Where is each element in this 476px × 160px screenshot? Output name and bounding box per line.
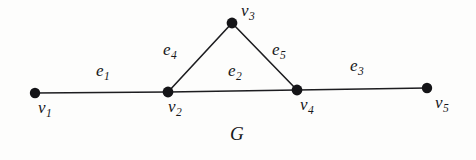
edge-label-e5: e5 (272, 41, 285, 58)
edge-label-e1: e1 (96, 62, 109, 79)
vertex-label-v1-base: v (38, 98, 46, 117)
edge-label-e4-base: e (163, 40, 171, 59)
graph-caption: G (230, 124, 244, 143)
vertex-label-v3-base: v (241, 1, 249, 20)
edge-e4-line (168, 23, 232, 92)
vertex-label-v3: v3 (241, 2, 254, 19)
edge-label-e2-base: e (228, 61, 236, 80)
edge-label-e3-sub: 3 (358, 65, 364, 77)
edge-label-e4: e4 (163, 41, 176, 58)
vertex-v2-dot (163, 87, 174, 98)
vertex-v1-dot (30, 88, 40, 98)
edge-label-e1-base: e (96, 61, 104, 80)
edge-e2-line (168, 90, 297, 92)
vertex-label-v2-sub: 2 (176, 106, 182, 118)
vertex-label-v4-base: v (300, 95, 308, 114)
edge-label-e5-base: e (272, 40, 280, 59)
vertex-v3-dot (227, 18, 238, 29)
vertex-v5-dot (422, 83, 432, 93)
edge-e1-line (35, 92, 168, 93)
vertex-label-v5-base: v (435, 93, 443, 112)
graph-figure: v1 v2 v3 v4 v5 e1 e2 e3 e4 e5 G (0, 0, 476, 160)
edge-e3-line (297, 88, 427, 90)
vertex-label-v3-sub: 3 (249, 10, 255, 22)
edge-label-e5-sub: 5 (280, 49, 286, 61)
edge-label-e4-sub: 4 (171, 49, 177, 61)
edge-label-e2-sub: 2 (236, 70, 242, 82)
vertex-label-v2: v2 (168, 98, 181, 115)
vertex-label-v1: v1 (38, 99, 51, 116)
edge-label-e1-sub: 1 (104, 70, 110, 82)
edge-label-e3: e3 (350, 57, 363, 74)
vertex-label-v1-sub: 1 (46, 107, 52, 119)
vertex-label-v5-sub: 5 (443, 102, 449, 114)
vertex-v4-dot (292, 85, 303, 96)
edge-label-e2: e2 (228, 62, 241, 79)
vertex-label-v4-sub: 4 (308, 104, 314, 116)
vertex-label-v2-base: v (168, 97, 176, 116)
vertex-label-v5: v5 (435, 94, 448, 111)
edge-label-e3-base: e (350, 56, 358, 75)
vertex-label-v4: v4 (300, 96, 313, 113)
